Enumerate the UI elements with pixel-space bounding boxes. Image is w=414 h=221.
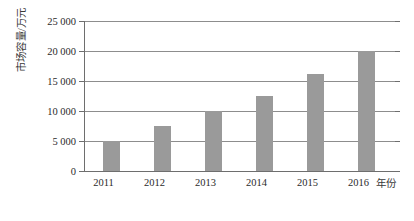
bar-chart-figure: 市场容量/万元 25 000 20 000 15 000 10 000 5 00… [0,0,414,221]
x-axis-title: 年份 [376,177,396,191]
y-tick-label: 10 000 [28,106,76,117]
y-tick-mark-0 [79,171,84,172]
y-axis-tick-labels: 25 000 20 000 15 000 10 000 5 000 0 [28,0,76,221]
y-tick-mark-right-10000 [395,111,400,112]
plot-area [84,21,395,171]
y-tick-label: 20 000 [28,46,76,57]
x-tick-label-2011: 2011 [78,176,129,190]
bar-2015 [307,74,324,171]
y-tick-mark-25000 [79,21,84,22]
bar-2011 [103,141,120,171]
y-tick-label: 15 000 [28,76,76,87]
x-tick-label-2012: 2012 [129,176,180,190]
y-tick-mark-5000 [79,141,84,142]
gridline-20000 [84,51,395,52]
x-tick-label-2013: 2013 [180,176,231,190]
x-tick-label-2014: 2014 [231,176,282,190]
gridline-25000 [84,21,395,22]
y-tick-mark-20000 [79,51,84,52]
y-tick-label: 25 000 [28,16,76,27]
gridline-10000 [84,111,395,112]
y-axis-line [84,21,85,171]
y-tick-label: 5 000 [28,136,76,147]
bar-2013 [205,111,222,171]
gridline-5000 [84,141,395,142]
y-tick-label: 0 [28,166,76,177]
bar-2012 [154,126,171,171]
y-tick-mark-right-25000 [395,21,400,22]
y-tick-mark-10000 [79,111,84,112]
gridline-15000 [84,81,395,82]
x-tick-label-2015: 2015 [282,176,333,190]
x-axis-line [84,171,395,172]
y-tick-mark-right-0 [395,171,400,172]
y-tick-mark-right-20000 [395,51,400,52]
y-tick-mark-15000 [79,81,84,82]
bar-2014 [256,96,273,171]
y-tick-mark-right-15000 [395,81,400,82]
bar-2016 [358,51,375,171]
y-tick-mark-right-5000 [395,141,400,142]
